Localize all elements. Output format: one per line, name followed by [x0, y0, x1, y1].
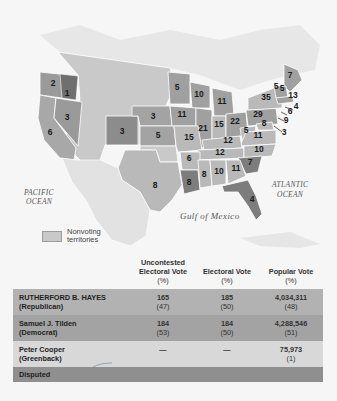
state-vote-label: 12 — [223, 135, 233, 145]
electoral-cell: 184(50) — [195, 315, 259, 341]
atlantic-ocean-label: ATLANTIC — [271, 180, 309, 189]
nonvoting-swatch — [42, 231, 62, 242]
state-vote-label: 10 — [254, 144, 264, 154]
state-vote-label: 5 — [274, 81, 279, 91]
header-electoral: Electoral Vote (%) — [195, 258, 259, 289]
state-vote-label: 8 — [153, 180, 158, 190]
uncontested-cell: 184(53) — [131, 315, 195, 341]
state-vote-label: 3 — [282, 127, 287, 137]
state-vote-label: 22 — [230, 116, 240, 126]
candidate-cell: Samuel J. Tilden (Democrat) — [13, 315, 131, 341]
uncontested-cell: — — [131, 341, 195, 367]
state-vote-label: 12 — [215, 147, 225, 157]
state-vote-label: 11 — [178, 109, 187, 119]
state-vote-label: 10 — [194, 89, 204, 99]
candidate-cell: RUTHERFORD B. HAYES (Republican) — [13, 289, 131, 315]
popular-cell: 4,288,546(51) — [259, 315, 323, 341]
header-popular: Popular Vote (%) — [259, 258, 323, 289]
state-vote-label: 10 — [214, 166, 224, 176]
pacific-ocean-label: PACIFIC — [23, 188, 55, 197]
pen-stroke-mark — [92, 362, 114, 368]
state-vote-label: 6 — [288, 106, 293, 116]
state-vote-label: 9 — [284, 115, 289, 125]
state-vote-label: 21 — [198, 123, 208, 133]
popular-cell: 4,034,311(48) — [259, 289, 323, 315]
table-row-hayes: RUTHERFORD B. HAYES (Republican) 165(47)… — [13, 289, 323, 315]
disputed-cell: Disputed — [13, 367, 323, 382]
state-vote-label: 8 — [202, 169, 207, 179]
table-row-cooper: Peter Cooper (Greenback) — — 75,973(1) — [13, 341, 323, 367]
table-header-row: Uncontested Electoral Vote (%) Electoral… — [13, 258, 323, 289]
state-vote-label: 6 — [48, 127, 53, 137]
state-vote-label: 15 — [214, 119, 224, 129]
electoral-cell: 185(50) — [195, 289, 259, 315]
uncontested-cell: 165(47) — [131, 289, 195, 315]
state-vote-label: 11 — [218, 96, 227, 106]
state-vote-label: 5 — [175, 82, 180, 92]
state-vote-label: 4 — [250, 194, 255, 204]
state-vote-label: 11 — [232, 163, 241, 173]
state-vote-label: 5 — [244, 125, 249, 135]
state-vote-label: 8 — [187, 177, 192, 187]
state-vote-label: 7 — [248, 157, 253, 167]
atlantic-ocean-label-2: OCEAN — [277, 190, 304, 199]
state-vote-label: 3 — [65, 112, 70, 122]
table-row-tilden: Samuel J. Tilden (Democrat) 184(53) 184(… — [13, 315, 323, 341]
map-legend: Nonvoting territories — [42, 228, 107, 244]
state-vote-label: 6 — [187, 153, 192, 163]
state-vote-label: 1 — [65, 88, 70, 98]
electoral-cell: — — [195, 341, 259, 367]
gulf-of-mexico-label: Gulf of Mexico — [180, 211, 240, 221]
header-candidate — [13, 258, 131, 289]
table-row-disputed: Disputed — [13, 367, 323, 382]
election-map: PACIFIC OCEAN ATLANTIC OCEAN Gulf of Mex… — [0, 0, 337, 258]
election-results-table: Uncontested Electoral Vote (%) Electoral… — [13, 258, 323, 382]
nonvoting-label: Nonvoting territories — [67, 228, 107, 244]
state-vote-label: 15 — [184, 132, 194, 142]
state-vote-label: 11 — [254, 130, 263, 140]
state-vote-label: 35 — [261, 92, 271, 102]
state-vote-label: 4 — [294, 101, 299, 111]
state-vote-label: 3 — [120, 126, 125, 136]
state-vote-label: 8 — [262, 118, 267, 128]
popular-cell: 75,973(1) — [259, 341, 323, 367]
state-vote-label: 7 — [288, 70, 293, 80]
state-vote-label: 5 — [280, 83, 285, 93]
state-vote-label: 13 — [288, 90, 298, 100]
state-vote-label: 2 — [51, 78, 56, 88]
pacific-ocean-label-2: OCEAN — [26, 197, 53, 206]
state-vote-label: 5 — [156, 130, 161, 140]
header-uncontested: Uncontested Electoral Vote (%) — [131, 258, 195, 289]
state-vote-label: 3 — [151, 111, 156, 121]
